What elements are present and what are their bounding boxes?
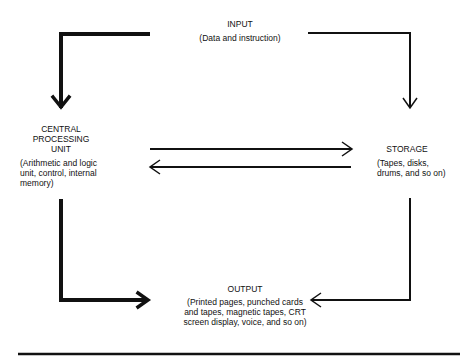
output-description-line-1: (Printed pages, punched cards — [160, 297, 330, 307]
storage-node: STORAGE (Tapes, disks, drums, and so on) — [377, 144, 467, 178]
cpu-title-line-3: UNIT — [20, 144, 102, 154]
cpu-title-line-1: CENTRAL — [20, 124, 102, 134]
arrow-cpu-to-output — [61, 201, 148, 307]
cpu-description-line-1: (Arithmetic and logic — [20, 158, 110, 168]
arrow-storage-to-cpu — [150, 160, 351, 174]
data-flow-diagram: INPUT (Data and instruction) CENTRAL PRO… — [0, 0, 471, 357]
output-description-line-2: and tapes, magnetic tapes, CRT — [160, 307, 330, 317]
output-description-line-3: screen display, voice, and so on) — [160, 317, 330, 327]
output-title: OUTPUT — [160, 284, 330, 294]
storage-description-line-2: drums, and so on) — [377, 168, 467, 178]
input-title: INPUT — [170, 19, 310, 29]
cpu-node: CENTRAL PROCESSING UNIT (Arithmetic and … — [20, 124, 110, 188]
arrow-input-to-cpu — [53, 34, 148, 107]
arrow-input-to-storage — [308, 33, 417, 108]
cpu-description-line-3: memory) — [20, 178, 110, 188]
cpu-title-line-2: PROCESSING — [20, 134, 102, 144]
cpu-description-line-2: unit, control, internal — [20, 168, 110, 178]
input-description: (Data and instruction) — [170, 33, 310, 43]
storage-title: STORAGE — [377, 144, 437, 154]
input-node: INPUT (Data and instruction) — [170, 19, 310, 43]
storage-description-line-1: (Tapes, disks, — [377, 158, 467, 168]
output-node: OUTPUT (Printed pages, punched cards and… — [160, 284, 330, 327]
arrow-cpu-to-storage — [150, 142, 352, 156]
